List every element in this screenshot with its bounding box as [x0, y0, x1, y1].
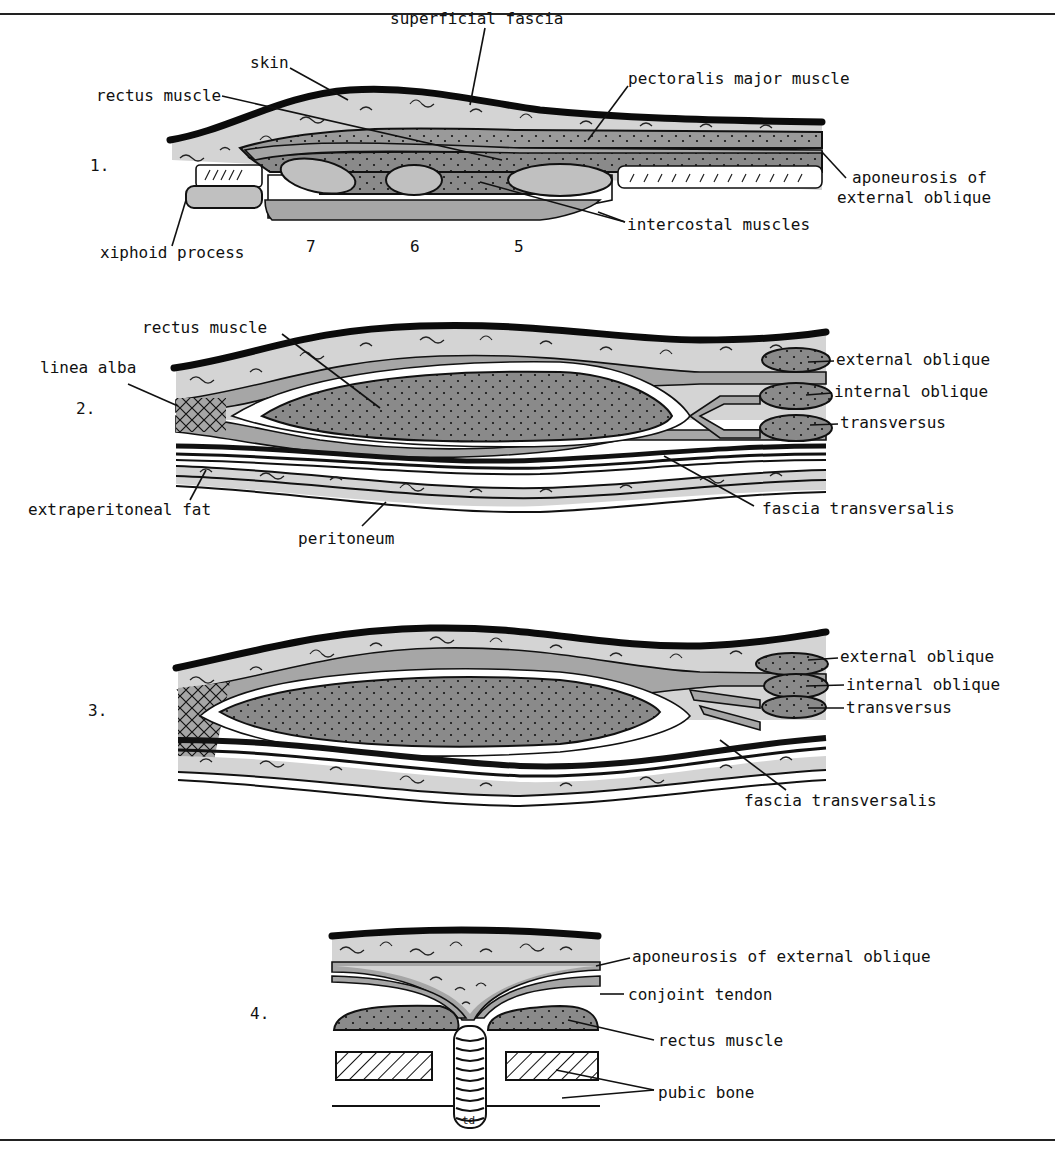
label-aponeurosis: aponeurosis of external oblique — [632, 947, 931, 966]
label-skin: skin — [250, 53, 289, 72]
signature: td — [462, 1114, 475, 1127]
panel-number: 2. — [76, 399, 95, 418]
label-conjoint-tendon: conjoint tendon — [628, 985, 773, 1004]
panel-4: 4. td aponeurosis of external oblique co… — [250, 930, 931, 1128]
xiphoid-bone — [186, 186, 262, 208]
label-pectoralis-major: pectoralis major muscle — [628, 69, 850, 88]
label-linea-alba: linea alba — [40, 358, 136, 377]
label-transversus: transversus — [840, 413, 946, 432]
rib-6 — [386, 165, 442, 195]
label-peritoneum: peritoneum — [298, 529, 394, 548]
panel-3: 3. external oblique internal oblique tra… — [88, 628, 1000, 810]
panel-number: 1. — [90, 156, 109, 175]
label-superficial-fascia: superficial fascia — [390, 9, 563, 28]
panel-number: 4. — [250, 1004, 269, 1023]
label-aponeurosis-line1: aponeurosis of — [852, 168, 987, 187]
label-rectus-muscle: rectus muscle — [658, 1031, 783, 1050]
label-rectus-muscle: rectus muscle — [142, 318, 267, 337]
label-transversus: transversus — [846, 698, 952, 717]
rib-number-6: 6 — [410, 237, 420, 256]
panel-number: 3. — [88, 701, 107, 720]
rib-5 — [508, 164, 612, 196]
label-intercostal-muscles: intercostal muscles — [627, 215, 810, 234]
rectus-muscle-right — [488, 1006, 598, 1030]
label-fascia-transversalis: fascia transversalis — [744, 791, 937, 810]
anatomy-figure: 1. superficial fascia skin rectus muscle… — [0, 0, 1055, 1152]
label-external-oblique: external oblique — [836, 350, 990, 369]
rectus-muscle-left — [334, 1006, 458, 1030]
panel-1: 1. superficial fascia skin rectus muscle… — [90, 9, 991, 262]
rib-number-7: 7 — [306, 237, 316, 256]
pubic-bone-left — [336, 1052, 432, 1080]
label-rectus-muscle: rectus muscle — [96, 86, 221, 105]
label-pubic-bone: pubic bone — [658, 1083, 754, 1102]
label-extraperitoneal-fat: extraperitoneal fat — [28, 500, 211, 519]
label-fascia-transversalis: fascia transversalis — [762, 499, 955, 518]
panel-2: 2. rectus muscle linea alba — [28, 318, 990, 548]
label-aponeurosis-line2: external oblique — [837, 188, 991, 207]
label-internal-oblique: internal oblique — [846, 675, 1000, 694]
xiphoid-cartilage — [196, 165, 262, 187]
label-internal-oblique: internal oblique — [834, 382, 988, 401]
label-external-oblique: external oblique — [840, 647, 994, 666]
rib-number-5: 5 — [514, 237, 524, 256]
